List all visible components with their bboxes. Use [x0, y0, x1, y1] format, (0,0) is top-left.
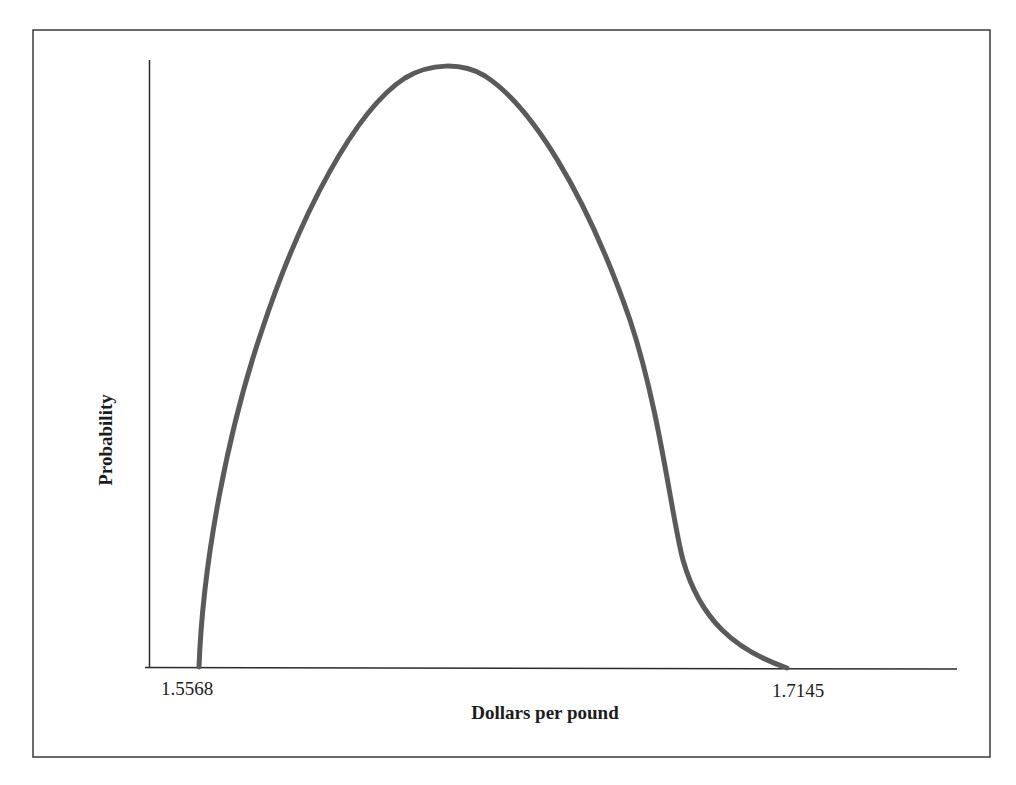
- y-axis-title: Probability: [95, 394, 117, 486]
- x-axis-title: Dollars per pound: [471, 702, 618, 724]
- x-tick-label-max: 1.7145: [772, 680, 824, 702]
- chart-canvas: [0, 0, 1016, 785]
- probability-curve: [199, 66, 787, 668]
- chart-frame: [33, 30, 990, 757]
- x-tick-label-min: 1.5568: [161, 678, 213, 700]
- x-axis: [145, 668, 957, 670]
